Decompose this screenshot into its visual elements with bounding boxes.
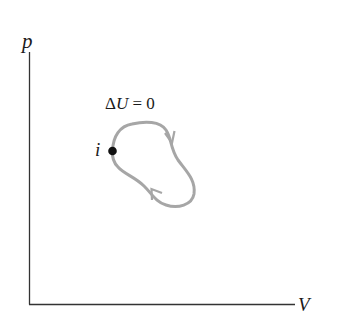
p-axis-label: p xyxy=(22,31,33,52)
delta-symbol: Δ xyxy=(105,94,116,113)
state-point-dot xyxy=(108,147,117,156)
equals-zero: = 0 xyxy=(128,94,155,113)
state-point-label: i xyxy=(95,140,100,159)
delta-u-annotation: ΔU = 0 xyxy=(105,95,155,112)
v-axis-label: V xyxy=(298,295,310,314)
cycle-path xyxy=(112,122,194,206)
pv-diagram xyxy=(0,0,339,316)
u-symbol: U xyxy=(116,94,128,113)
